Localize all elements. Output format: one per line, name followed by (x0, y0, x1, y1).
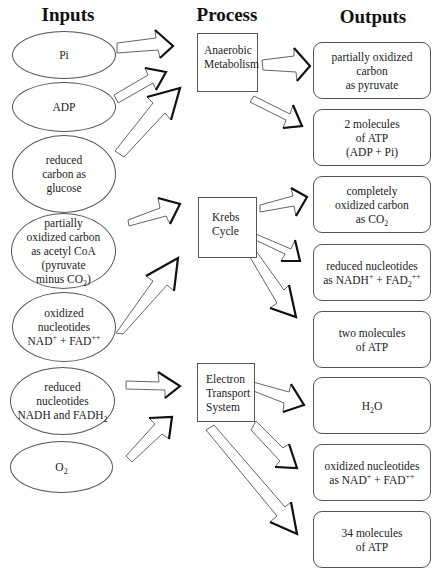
output-two-atp: two molecules of ATP (313, 311, 431, 368)
arrow-nadh-to-ets (126, 372, 180, 398)
input-oxidized-nucleotides: oxidized nucleotides NAD+ + FAD++ (12, 292, 116, 362)
arrow-oxygen-to-ets (126, 417, 172, 462)
arrow-oxidized-to-krebs (116, 258, 178, 334)
input-acetyl-coa-label: partially oxidized carbon as acetyl CoA … (27, 216, 101, 286)
process-krebs-cycle: Krebs Cycle (198, 197, 257, 258)
arrow-ets-to-water (251, 382, 304, 412)
arrow-ets-to-34-atp (206, 425, 297, 534)
input-pi-label: Pi (59, 48, 69, 62)
output-oxidized-nucleotides-label: oxidized nucleotides as NAD+ + FAD++ (325, 459, 420, 487)
output-atp-2: 2 molecules of ATP (ADP + Pi) (313, 109, 431, 166)
input-reduced-nucleotides: reduced nucleotides NADH and FADH2 (10, 367, 115, 435)
process-anaerobic-metabolism: Anaerobic Metabolism (197, 33, 258, 92)
arrow-anaerobic-to-atp2 (250, 96, 302, 128)
output-reduced-nucleotides: reduced nucleotides as NADH+ + FAD2++ (313, 244, 431, 301)
input-oxygen-label: O2 (55, 460, 67, 474)
input-reduced-nucleotides-label: reduced nucleotides NADH and FADH2 (17, 380, 107, 422)
input-glucose-label: reduced carbon as glucose (42, 153, 86, 195)
arrow-anaerobic-to-pyruvate (262, 48, 310, 81)
input-glucose: reduced carbon as glucose (12, 135, 116, 213)
output-pyruvate: partially oxidized carbon as pyruvate (313, 42, 431, 99)
process-electron-transport-system: Electron Transport System (197, 363, 255, 422)
output-reduced-nucleotides-label: reduced nucleotides as NADH+ + FAD2++ (323, 259, 421, 287)
input-oxygen: O2 (10, 441, 113, 493)
output-water: H2O (313, 377, 431, 434)
input-adp: ADP (12, 82, 116, 132)
arrow-krebs-to-co2 (260, 188, 307, 216)
input-acetyl-coa: partially oxidized carbon as acetyl CoA … (11, 213, 116, 289)
output-atp-34: 34 molecules of ATP (313, 511, 431, 568)
arrow-acetylcoa-to-krebs (128, 198, 180, 226)
output-water-label: H2O (362, 399, 383, 413)
output-co2: completely oxidized carbon as CO2 (313, 176, 431, 233)
input-oxidized-nucleotides-label: oxidized nucleotides NAD+ + FAD++ (28, 306, 101, 348)
input-pi: Pi (12, 31, 116, 79)
arrow-pi-to-anaerobic (117, 30, 173, 58)
arrow-ets-to-oxidized-nucleotides (251, 421, 297, 468)
output-co2-label: completely oxidized carbon as CO2 (335, 184, 409, 226)
input-adp-label: ADP (52, 100, 75, 114)
output-oxidized-nucleotides: oxidized nucleotides as NAD+ + FAD++ (313, 444, 431, 501)
